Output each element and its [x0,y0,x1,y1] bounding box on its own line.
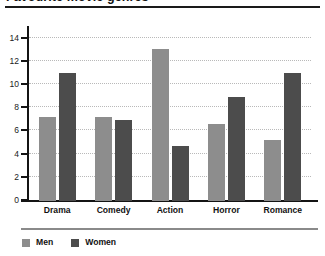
legend-item-women[interactable]: Women [71,238,116,247]
bar-group [0,0,325,256]
bar-horror-men [208,124,225,201]
x-axis-label-romance: Romance [255,205,311,215]
legend-item-label: Women [85,238,116,247]
bar-drama-men [39,117,56,201]
bar-drama-women [59,73,76,201]
bar-horror-women [228,97,245,201]
bar-romance-women [284,73,301,201]
bar-romance-men [264,140,281,201]
bar-comedy-women [115,120,132,201]
x-axis-label-drama: Drama [29,205,85,215]
legend-swatch-icon [71,239,79,247]
chart-legend: MenWomen [22,238,116,247]
bar-action-men [152,49,169,201]
legend-item-label: Men [36,238,53,247]
legend-swatch-icon [22,239,30,247]
bar-comedy-men [95,117,112,201]
chart-page: Favourite movie genres 02468101214 Drama… [0,0,325,256]
legend-item-men[interactable]: Men [22,238,53,247]
x-axis-label-comedy: Comedy [85,205,141,215]
legend-separator-rule [21,228,318,230]
x-axis-label-horror: Horror [198,205,254,215]
bar-action-women [172,146,189,201]
x-axis-label-action: Action [142,205,198,215]
